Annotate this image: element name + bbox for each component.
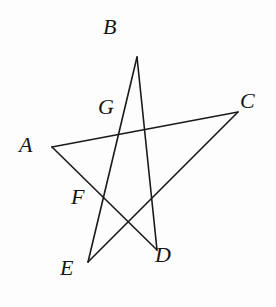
vertex-label-D: D (155, 244, 171, 266)
segment-EB (88, 57, 137, 262)
segment-CE (88, 112, 238, 262)
intersection-label-F: F (71, 186, 84, 208)
segments-group (52, 57, 238, 262)
vertex-label-E: E (60, 257, 73, 279)
intersection-label-G: G (98, 96, 114, 118)
vertex-label-C: C (240, 90, 255, 112)
star-diagram (0, 0, 276, 307)
vertex-label-B: B (103, 16, 116, 38)
figure-canvas: A B C D E G F (0, 0, 276, 307)
vertex-label-A: A (19, 134, 32, 156)
segment-BD (137, 57, 157, 250)
segment-DA (52, 147, 157, 250)
